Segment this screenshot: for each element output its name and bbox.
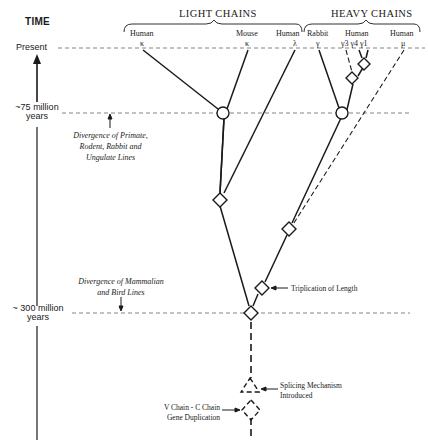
time-mark-75-line2: years [12, 112, 62, 121]
event-triplication: Triplication of Length [291, 284, 357, 294]
leaf-species-human-gamma: Human [345, 30, 369, 38]
leaf-species-rabbit-gamma: Rabbit [307, 30, 328, 38]
event-vc-duplication-line1: V Chain - C Chain [162, 403, 220, 413]
arrow-up-icon [108, 114, 112, 119]
leaf-species-human-kappa: Human [130, 30, 154, 38]
event-vc-duplication-line2: Gene Duplication [162, 413, 220, 423]
diamond-heavy-mid [282, 222, 296, 236]
time-mark-300-line2: years [6, 313, 70, 322]
event-splicing-line2: Introduced [280, 391, 342, 401]
phylogeny-diagram [0, 0, 428, 446]
light-chains-title: LIGHT CHAINS [179, 9, 257, 20]
diamond-base [244, 306, 258, 320]
diamond-light [213, 193, 227, 207]
light-divergence-node [217, 107, 229, 119]
arrow-left-icon [271, 286, 276, 290]
note-divergence-primate: Divergence of Primate, Rodent, Rabbit an… [58, 131, 163, 163]
diamond-heavy-gamma-lower [346, 72, 358, 84]
leaf-species-human-mu: Human [390, 30, 414, 38]
leaf-chain-human-kappa: κ [140, 40, 144, 48]
arrow-left-icon [261, 387, 266, 391]
event-splicing-line1: Splicing Mechanism [280, 381, 342, 391]
note-divergence-bird: Divergence of Mammalian and Bird Lines [66, 277, 176, 299]
time-gridlines [58, 48, 425, 313]
note-divergence-primate-line2: Rodent, Rabbit and [58, 142, 163, 153]
heavy-chain-tree [253, 50, 368, 306]
note-divergence-primate-line3: Ungulate Lines [58, 153, 163, 164]
event-splicing: Splicing Mechanism Introduced [280, 381, 342, 401]
heavy-chains-title: HEAVY CHAINS [331, 9, 413, 20]
heavy-divergence-node [336, 107, 348, 119]
note-divergence-primate-line1: Divergence of Primate, [58, 131, 163, 142]
present-label: Present [16, 43, 47, 52]
arrow-up-icon [33, 54, 41, 64]
leaf-chain-mouse-kappa: κ [245, 40, 249, 48]
note-divergence-bird-line1: Divergence of Mammalian [66, 277, 176, 288]
vc-duplication-diamond [242, 400, 260, 420]
leaf-chain-human-gamma-subclasses: γ3 γ4 γ1 [341, 40, 368, 48]
diamond-heavy-gamma-upper [358, 58, 370, 70]
arrow-down-icon [119, 306, 123, 311]
time-mark-75: ~75 million years [12, 103, 62, 121]
axis-title: TIME [25, 17, 50, 27]
splicing-triangle [241, 378, 259, 392]
event-vc-duplication: V Chain - C Chain Gene Duplication [162, 403, 220, 423]
leaf-species-human-lambda: Human [276, 30, 300, 38]
time-mark-300: ~ 300 million years [6, 304, 70, 322]
leaf-chain-rabbit-gamma: γ [316, 40, 320, 48]
tree-nodes [213, 58, 370, 320]
note-divergence-bird-line2: and Bird Lines [66, 288, 176, 299]
arrow-right-icon [235, 408, 240, 412]
leaf-species-mouse-kappa: Mouse [236, 30, 258, 38]
leaf-chain-human-mu: μ [401, 40, 405, 48]
diamond-triplication [255, 281, 269, 295]
leaf-chain-human-lambda: λ [293, 40, 297, 48]
